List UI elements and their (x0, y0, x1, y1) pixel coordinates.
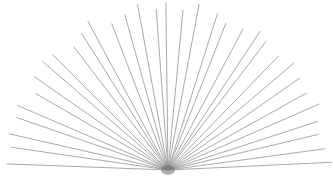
radial-fan-svg (0, 0, 333, 189)
convergence-hub (161, 165, 175, 175)
figure-canvas (0, 0, 333, 189)
